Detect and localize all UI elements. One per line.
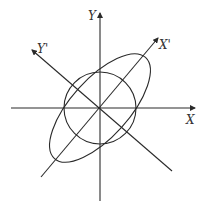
x-prime-axis-label: X'	[158, 38, 171, 52]
y-prime-axis	[32, 50, 172, 171]
y-axis-label: Y	[88, 9, 97, 23]
y-prime-axis-label: Y'	[37, 42, 48, 56]
x-axis-label: X	[185, 113, 195, 127]
rotated-axes-diagram: Y X Y' X'	[0, 0, 201, 203]
